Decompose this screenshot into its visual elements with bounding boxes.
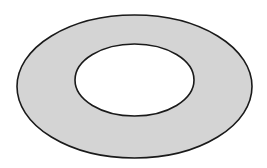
annulus-diagram — [0, 0, 267, 168]
inner-ellipse — [75, 44, 194, 116]
